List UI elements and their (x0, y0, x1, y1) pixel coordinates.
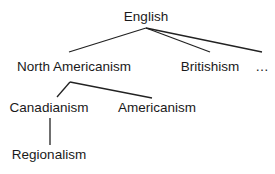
tree-diagram: English North Americanism Britishism … C… (0, 0, 275, 174)
node-americanism: Americanism (118, 100, 196, 116)
edge-north-americanism-americanism (70, 82, 152, 98)
node-north-americanism: North Americanism (17, 59, 131, 75)
edge-english-ellipsis (146, 28, 262, 52)
node-english: English (124, 9, 168, 25)
edge-north-americanism-canadianism (57, 82, 70, 97)
node-regionalism: Regionalism (12, 147, 86, 163)
node-britishism: Britishism (181, 59, 240, 75)
edge-english-britishism (146, 28, 210, 52)
edge-english-north-americanism (69, 28, 146, 52)
node-canadianism: Canadianism (10, 100, 89, 116)
node-ellipsis: … (255, 59, 269, 75)
